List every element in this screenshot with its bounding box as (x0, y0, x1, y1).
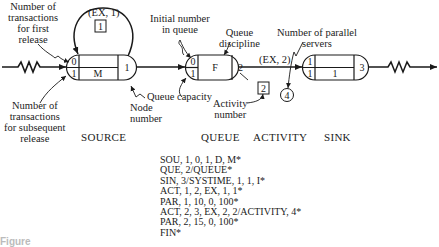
input-arrow (2, 62, 66, 72)
code-line: FIN* (160, 228, 301, 238)
source-subsequent-release: 1 (72, 68, 77, 79)
annotation-queue-capacity: Queue capacity (147, 91, 212, 102)
section-label-sink: SINK (324, 131, 351, 143)
queue-initial: 0 (191, 56, 196, 67)
queue-capacity: 1 (191, 68, 196, 79)
figure-caption: Figure (0, 236, 31, 247)
sink-top-left: 1 (308, 56, 313, 67)
section-label-source: SOURCE (81, 131, 126, 143)
source-discipline: M (94, 68, 103, 79)
activity-number: 2 (261, 83, 266, 94)
annotation-activity-number: Activity number (213, 98, 247, 120)
queue-discipline: F (212, 62, 218, 73)
annotation-first-release: Number of transactions for first release (8, 1, 58, 45)
source-loop-label: (EX, 1) (88, 7, 120, 19)
code-listing: SOU, 1, 0, 1, D, M* QUE, 2/QUEUE* SIN, 3… (160, 155, 301, 238)
sink-bottom-left: 1 (308, 68, 313, 79)
annotation-subsequent-release: Number of transactions for subsequent re… (4, 100, 66, 144)
queue-node-number: 2 (238, 62, 243, 73)
section-label-queue: QUEUE (201, 131, 240, 143)
annotation-parallel-servers: Number of parallel servers (277, 27, 357, 49)
annotation-node-number: Node number (130, 102, 162, 124)
parallel-servers: 4 (285, 90, 290, 101)
source-activity-number: 1 (98, 21, 103, 32)
section-label-activity: ACTIVITY (253, 131, 307, 143)
source-node-number: 1 (125, 62, 130, 73)
sink-middle: 1 (333, 68, 338, 79)
code-line: PAR, 2, 15, 0, 100* (160, 217, 301, 227)
source-first-release: 0 (72, 56, 77, 67)
annotation-queue-discipline: Queue discipline (219, 27, 260, 49)
activity-edge-label: (EX, 2) (259, 54, 291, 66)
sink-node-number: 3 (360, 62, 365, 73)
output-arrow (369, 62, 437, 72)
annotation-initial-in-queue: Initial number in queue (150, 13, 210, 35)
